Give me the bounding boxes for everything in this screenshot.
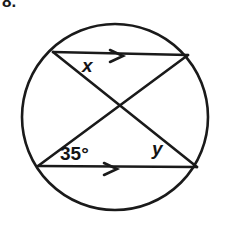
circle-chord-diagram [0,0,230,228]
geometry-figure: 8. x y 35° [0,0,230,228]
bottom-chord [38,166,197,167]
parallel-arrow-bottom-icon [104,163,117,175]
label-x: x [82,56,93,75]
label-y: y [152,139,163,158]
label-angle-35-degrees: 35° [60,144,89,163]
parallel-arrow-top-icon [110,50,123,62]
